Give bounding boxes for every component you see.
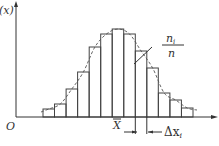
bin-width-dimension: Δxi xyxy=(124,117,182,140)
mean-label: X xyxy=(112,119,122,132)
y-axis-arrow xyxy=(14,1,18,7)
histogram-bar xyxy=(147,68,159,117)
annotation-denominator: n xyxy=(168,47,175,60)
histogram-bar xyxy=(170,100,182,117)
histogram-bar xyxy=(43,109,55,117)
histogram-bar xyxy=(66,89,78,117)
leader-line xyxy=(134,47,152,64)
histogram-bar xyxy=(112,29,124,117)
annotation-numerator: ni xyxy=(166,32,175,46)
x-axis-arrow xyxy=(211,115,218,119)
frequency-annotation: ni n xyxy=(134,32,184,64)
histogram-chart: (x) O X Δxi ni n xyxy=(0,0,219,146)
histogram-bar xyxy=(55,104,67,117)
histogram-bar xyxy=(124,34,136,117)
histogram-bar xyxy=(101,34,113,117)
y-axis-label: (x) xyxy=(0,4,14,17)
origin-label: O xyxy=(6,120,15,133)
histogram-bar xyxy=(89,47,101,117)
bin-width-label: Δxi xyxy=(164,125,182,140)
